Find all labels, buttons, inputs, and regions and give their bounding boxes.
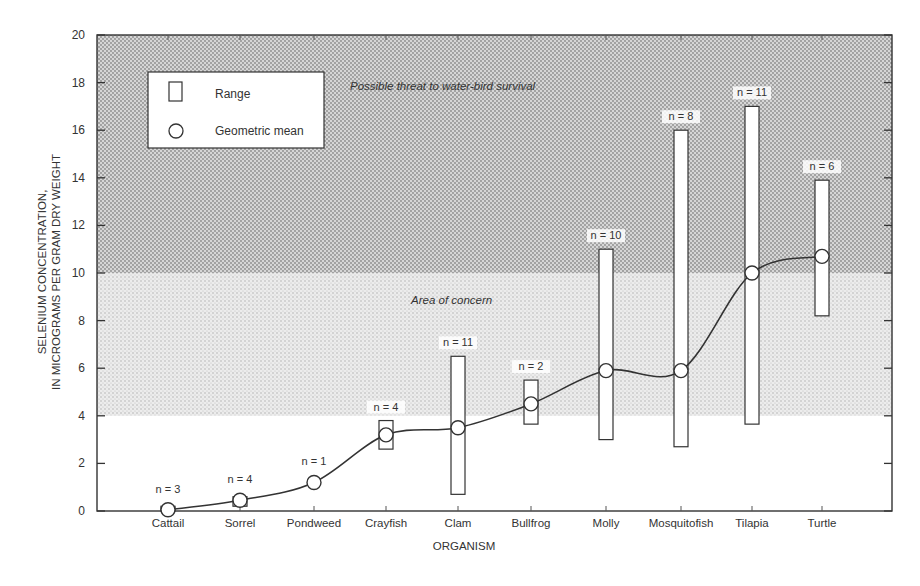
geometric-mean-marker [307,475,321,489]
geometric-mean-marker [233,493,247,507]
y-tick-label: 16 [72,123,86,137]
x-category-label: Molly [593,517,620,529]
sample-size-label: n = 11 [443,336,473,348]
sample-size-label: n = 6 [810,160,835,172]
zone-0 [97,35,892,273]
sample-size-label: n = 1 [302,455,327,467]
range-bar [745,106,759,424]
y-tick-label: 18 [72,76,86,90]
y-axis-title-line1: SELENIUM CONCENTRATION, [36,190,48,355]
x-category-label: Clam [445,517,472,529]
y-tick-label: 4 [78,409,85,423]
x-axis-title: ORGANISM [433,540,496,552]
geometric-mean-marker [524,397,538,411]
geometric-mean-marker [599,364,613,378]
geometric-mean-marker [815,249,829,263]
y-tick-label: 2 [78,456,85,470]
y-axis-title-line2: IN MICROGRAMS PER GRAM DRY WEIGHT [50,154,62,390]
x-category-label: Turtle [808,517,837,529]
legend: Range Geometric mean [148,72,324,148]
y-tick-label: 8 [78,314,85,328]
sample-size-label: n = 4 [228,473,253,485]
x-category-label: Tilapia [735,517,769,529]
x-category-label: Bullfrog [512,517,551,529]
geometric-mean-marker [379,428,393,442]
sample-size-label: n = 2 [519,360,544,372]
zone-1 [97,273,892,416]
y-tick-label: 0 [78,504,85,518]
sample-size-label: n = 11 [737,86,767,98]
zone-label-concern: Area of concern [410,294,492,306]
sample-size-label: n = 10 [591,229,622,241]
selenium-chart: 02468101214161820 CattailSorrelPondweedC… [0,0,920,586]
range-bar [599,249,613,439]
geometric-mean-marker [745,266,759,280]
geometric-mean-marker [674,364,688,378]
x-category-label: Cattail [152,517,185,529]
sample-size-label: n = 3 [156,483,181,495]
y-tick-label: 20 [72,28,86,42]
legend-mean-icon [169,124,183,138]
y-tick-label: 14 [72,171,86,185]
legend-range-icon [169,82,182,101]
zone-label-threat: Possible threat to water-bird survival [350,80,536,92]
sample-size-label: n = 8 [669,110,694,122]
range-bar [674,130,688,447]
y-tick-label: 12 [72,218,86,232]
legend-range-label: Range [215,87,251,101]
legend-mean-label: Geometric mean [215,124,304,138]
x-category-label: Mosquitofish [649,517,714,529]
x-category-label: Sorrel [225,517,256,529]
y-tick-label: 10 [72,266,86,280]
geometric-mean-marker [161,503,175,517]
geometric-mean-marker [451,421,465,435]
x-category-label: Pondweed [287,517,341,529]
range-bar [815,180,829,316]
y-tick-label: 6 [78,361,85,375]
x-category-label: Crayfish [365,517,407,529]
sample-size-label: n = 4 [374,401,399,413]
